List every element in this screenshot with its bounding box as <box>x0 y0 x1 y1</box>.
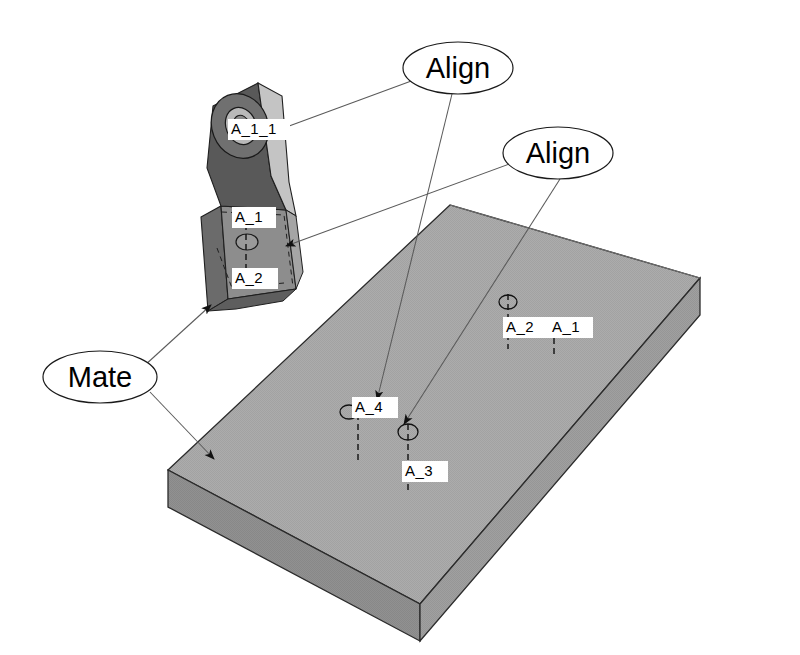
part-label-bracket-a2[interactable]: A_2 <box>232 268 278 289</box>
part-label-bracket-a1[interactable]: A_1 <box>232 207 276 228</box>
cad-illustration-canvas: Align Align Mate A_1_1 A_1 A_2 A_2 <box>0 0 800 655</box>
part-label-plate-a2-text: A_2 <box>506 318 534 335</box>
callout-align-2[interactable]: Align <box>503 127 613 179</box>
callout-mate[interactable]: Mate <box>43 351 157 403</box>
leader-mate-to-bracket <box>144 305 211 366</box>
part-label-plate-a1-text: A_1 <box>552 318 580 335</box>
part-label-bracket-a11[interactable]: A_1_1 <box>228 119 290 140</box>
callout-align-2-label: Align <box>526 137 591 169</box>
isometric-assembly-scene: Align Align Mate A_1_1 A_1 A_2 A_2 <box>0 0 800 655</box>
part-label-plate-a3-text: A_3 <box>405 462 433 479</box>
part-label-bracket-a11-text: A_1_1 <box>231 120 277 137</box>
leader-mate-to-plate <box>150 392 214 459</box>
part-label-bracket-a2-text: A_2 <box>235 269 263 286</box>
callout-align-1-label: Align <box>426 52 491 84</box>
part-label-plate-a4-text: A_4 <box>355 398 383 415</box>
part-label-plate-a1[interactable]: A_1 <box>549 317 593 338</box>
callout-align-1[interactable]: Align <box>403 42 513 94</box>
part-label-plate-a3[interactable]: A_3 <box>402 461 448 482</box>
part-label-plate-a4[interactable]: A_4 <box>352 397 398 418</box>
part-label-plate-a2[interactable]: A_2 <box>503 317 549 338</box>
bracket-flange-hole <box>236 234 258 250</box>
callout-mate-label: Mate <box>68 361 132 393</box>
part-label-bracket-a1-text: A_1 <box>235 208 263 225</box>
